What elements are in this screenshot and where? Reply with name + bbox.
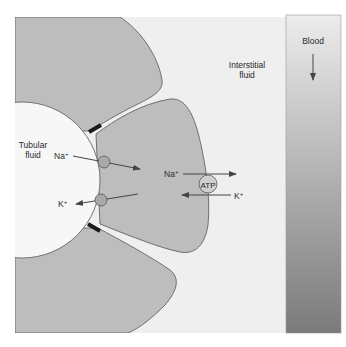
apical-k-channel — [95, 194, 107, 206]
tubular-label-line1: Tubular — [19, 140, 48, 150]
tubular-label-line2: fluid — [25, 150, 41, 160]
interstitial-label-line2: fluid — [239, 70, 255, 80]
blood-label: Blood — [302, 36, 324, 46]
interstitial-label-line1: Interstitial — [229, 60, 265, 70]
diagram-canvas: Blood Interstitial fluid Tubular fluid N… — [0, 0, 346, 347]
apical-na-channel — [98, 156, 110, 168]
atp-label: ATP — [201, 181, 216, 190]
